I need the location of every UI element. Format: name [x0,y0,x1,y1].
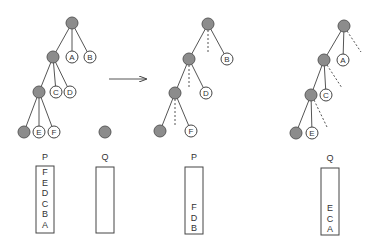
stack-item: B [191,223,197,233]
leaf-node-A: A [337,54,349,66]
removed-edge [327,65,342,88]
internal-node [318,54,330,66]
stack-item: F [191,202,197,212]
stack-P: PFEDCBA [36,152,54,233]
stack-item: D [42,188,49,198]
internal-node [338,20,350,32]
internal-node [18,126,30,138]
leaf-node-D: D [200,87,212,99]
tree-middle [160,24,227,131]
tree-right [296,26,361,133]
stack-item: F [42,167,48,177]
stack-P: PFDB [185,152,203,234]
leaf-node-E: E [33,126,45,138]
tree-left-nodes: ABCDEF [18,17,96,138]
stack-item: A [42,220,48,230]
tree-left [24,23,90,132]
leaf-label: E [36,128,41,137]
stack-label: Q [101,152,108,162]
tree-nodes: ABCDEFBDFACE [18,17,350,139]
removed-edge [314,100,327,127]
internal-node [33,86,45,98]
leaf-label: D [67,88,73,97]
stack-label: P [191,152,197,162]
leaf-node-F: F [48,126,60,138]
stack-box [96,167,114,233]
leaf-label: E [309,129,314,138]
internal-node [290,127,302,139]
stack-item: E [42,178,48,188]
stack-item: B [42,209,48,219]
internal-node [154,125,166,137]
leaf-label: A [340,56,346,65]
leaf-node-C: C [50,86,62,98]
removed-edge [347,31,361,52]
leaf-label: B [87,53,92,62]
stack-label: P [42,152,48,162]
stack-Q: Q [96,152,114,233]
leaf-label: F [189,127,194,136]
leaf-node-C: C [320,89,332,101]
standalone-node [99,126,111,138]
leaf-label: C [53,88,59,97]
leaf-label: B [224,55,229,64]
leaf-node-D: D [64,86,76,98]
stack-item: E [327,203,333,213]
internal-node [47,51,59,63]
stack-Q: QECA [321,153,339,235]
stack-label: Q [326,153,333,163]
stack-item: D [191,213,198,223]
internal-node [183,53,195,65]
internal-node [169,87,181,99]
leaf-label: D [203,89,209,98]
leaf-label: C [323,91,329,100]
internal-node [305,89,317,101]
leaf-label: F [52,128,57,137]
stack-item: A [327,224,333,234]
tree-edges [24,23,361,133]
stacks: PFEDCBAQPFDBQECA [36,152,339,235]
stack-item: C [327,214,334,224]
internal-node [66,17,78,29]
leaf-node-F: F [185,125,197,137]
leaf-node-B: B [84,51,96,63]
stack-item: C [42,199,49,209]
leaf-label: A [69,53,75,62]
tree-right-nodes: ACE [290,20,350,139]
diagram-canvas: ABCDEFBDFACE PFEDCBAQPFDBQECA [0,0,378,251]
leaf-node-B: B [221,53,233,65]
tree-middle-nodes: BDF [154,18,233,137]
leaf-node-E: E [306,127,318,139]
internal-node [202,18,214,30]
leaf-node-A: A [66,51,78,63]
